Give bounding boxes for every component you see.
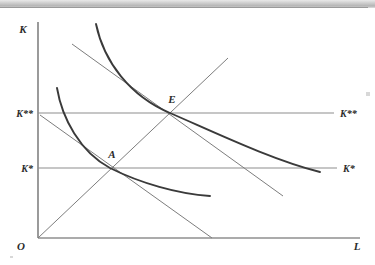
level-label-k-double-star-left: K** [15, 108, 34, 119]
level-label-k-double-star-right: K** [339, 108, 358, 119]
point-label-e: E [167, 93, 175, 105]
y-axis-label: K [18, 23, 27, 35]
isoquant-curve-high [96, 24, 320, 172]
isoquant-isocost-figure: K L O K** K** K* K* E A [0, 0, 375, 265]
figure-canvas: K L O K** K** K* K* E A [0, 0, 375, 265]
origin-label: O [17, 240, 25, 252]
isocost-line-a [40, 115, 212, 238]
point-label-a: A [107, 148, 115, 160]
level-label-k-star-left: K* [20, 163, 34, 174]
isocost-line-e [72, 44, 283, 196]
level-label-k-star-right: K* [342, 163, 356, 174]
expansion-path-ray [38, 58, 228, 238]
x-axis-label: L [353, 240, 361, 252]
isoquant-curve-low [57, 88, 210, 196]
